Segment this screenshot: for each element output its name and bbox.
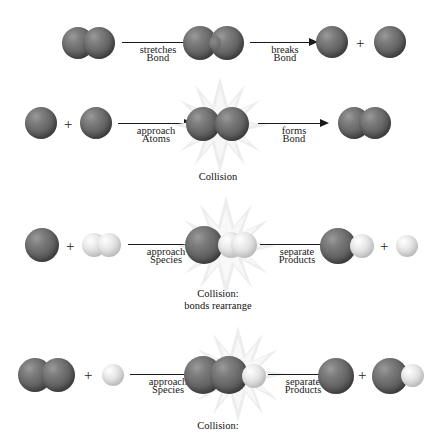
sphere-light [350, 234, 374, 258]
molecule-light-diatomic-reactant [82, 233, 124, 259]
caption-collision: Collision [168, 171, 268, 183]
sphere-dark [25, 228, 59, 262]
plus-sign: + [64, 117, 72, 132]
molecule-dark-stretched [183, 24, 245, 62]
atom-light-product [396, 235, 418, 257]
sphere-dark [80, 107, 112, 139]
atom-dark-reactant-1 [25, 107, 57, 139]
caption-collision-line2: bonds rearrange [155, 300, 281, 312]
arrow-bond-breaks: Bond breaks [250, 42, 320, 66]
plus-sign: + [358, 368, 366, 383]
arrow-shaft [258, 123, 321, 124]
arrow-label-bottom: approach [118, 125, 194, 136]
molecule-dark-diatomic-reactant [62, 26, 116, 60]
sphere-dark [316, 26, 348, 58]
row-atoms-approach-bond-forms: + Atoms approach Collision Bond forms [0, 95, 424, 155]
atom-light-reactant [102, 364, 124, 386]
atom-dark-reactant [25, 228, 59, 262]
sphere-dark [41, 358, 75, 392]
caption-collision-line1: Collision: [155, 420, 281, 432]
sphere-dark [374, 26, 406, 58]
sphere-dark [215, 107, 249, 141]
sphere-dark [25, 107, 57, 139]
molecule-dark-colliding-pair [186, 107, 250, 143]
bond-neck [209, 36, 221, 50]
molecule-mixed-product [372, 358, 424, 396]
row-molecule-plus-atom-exchange: + Species approach Collision: Products [0, 348, 424, 408]
plus-sign: + [380, 239, 388, 254]
molecule-dark-diatomic-product [338, 107, 392, 141]
reaction-diagram: Bond stretches Bond breaks + + [0, 0, 424, 434]
caption-collision-line1: Collision: [155, 288, 281, 300]
arrow-bond-forms: Bond forms [258, 123, 330, 147]
atom-dark-product-2 [374, 26, 406, 58]
arrow-atoms-approach: Atoms approach [118, 123, 194, 147]
arrow-shaft [118, 123, 185, 124]
sphere-light [231, 232, 257, 258]
collision-complex-diatomic-plus-atom [184, 356, 268, 396]
atom-dark-reactant-2 [80, 107, 112, 139]
collision-complex-dark-plus-light [185, 226, 257, 266]
sphere-light [396, 235, 418, 257]
sphere-dark [359, 107, 391, 139]
plus-sign: + [356, 36, 364, 51]
atom-dark-product-1 [316, 26, 348, 58]
molecule-mixed-product [320, 228, 376, 266]
arrow-shaft [250, 42, 310, 43]
sphere-light [242, 364, 266, 388]
sphere-light [102, 364, 124, 386]
plus-sign: + [66, 239, 74, 254]
row-species-approach-bonds-rearrange: + Species approach Collision: bonds rear… [0, 218, 424, 278]
arrow-shaft [122, 42, 185, 43]
atom-dark-product [318, 358, 354, 394]
sphere-dark [318, 358, 354, 394]
arrow-label-bottom: breaks [250, 44, 320, 55]
arrow-label-bottom: forms [258, 125, 330, 136]
plus-sign: + [84, 368, 92, 383]
molecule-dark-diatomic-reactant [18, 358, 76, 394]
sphere-light [97, 233, 121, 257]
sphere-dark [83, 27, 115, 59]
row-bond-stretch-and-break: Bond stretches Bond breaks + [0, 12, 424, 72]
arrow-shaft [260, 244, 325, 245]
sphere-light [401, 364, 424, 387]
